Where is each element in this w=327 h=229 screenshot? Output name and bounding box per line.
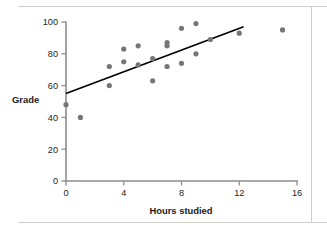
data-point xyxy=(121,59,126,64)
y-tick-label: 0 xyxy=(53,176,58,186)
data-point xyxy=(179,26,184,31)
y-tick-label: 40 xyxy=(48,113,58,123)
data-points-group xyxy=(63,21,285,120)
data-point xyxy=(150,56,155,61)
y-tick-label: 80 xyxy=(48,49,58,59)
data-point xyxy=(164,64,169,69)
x-tick-label: 0 xyxy=(63,188,68,198)
data-point xyxy=(136,62,141,67)
y-tick-label: 20 xyxy=(48,145,58,155)
data-point xyxy=(150,78,155,83)
data-point xyxy=(193,21,198,26)
data-point xyxy=(121,46,126,51)
y-tick-label: 100 xyxy=(43,17,58,27)
data-point xyxy=(193,51,198,56)
data-point xyxy=(78,115,83,120)
data-point xyxy=(179,61,184,66)
x-tick-label: 8 xyxy=(179,188,184,198)
data-point xyxy=(107,64,112,69)
data-point xyxy=(208,37,213,42)
x-axis-ticks: 0481216 xyxy=(63,181,302,198)
data-point xyxy=(237,31,242,36)
scatter-plot-figure: 020406080100 0481216 Grade Hours studied xyxy=(0,0,327,229)
data-point xyxy=(107,83,112,88)
x-tick-label: 12 xyxy=(234,188,244,198)
x-tick-label: 4 xyxy=(121,188,126,198)
y-axis-ticks: 020406080100 xyxy=(43,17,66,186)
x-tick-label: 16 xyxy=(292,188,302,198)
regression-trendline xyxy=(66,27,244,94)
data-point xyxy=(63,102,68,107)
y-tick-label: 60 xyxy=(48,81,58,91)
x-axis-title: Hours studied xyxy=(149,205,212,216)
data-point xyxy=(280,27,285,32)
data-point xyxy=(164,43,169,48)
y-axis-title: Grade xyxy=(12,94,39,105)
data-point xyxy=(136,43,141,48)
plot-canvas: 020406080100 0481216 Grade Hours studied xyxy=(0,0,327,229)
